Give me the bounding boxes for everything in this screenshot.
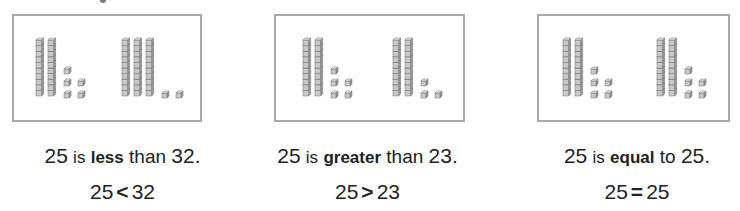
- unit-cube-icon: [591, 67, 598, 74]
- right-number: 23.: [429, 144, 458, 167]
- unit-segment: [393, 38, 401, 46]
- equation-right: 32: [132, 180, 155, 203]
- ten-rod-icon: [657, 38, 665, 96]
- unit-segment: [669, 38, 677, 46]
- comparison-equation: 25>23: [245, 180, 490, 204]
- unit-cube-icon: [435, 91, 442, 98]
- unit-segment: [134, 38, 142, 46]
- unit-segment: [122, 38, 130, 46]
- unit-segment: [303, 38, 311, 46]
- comparison-keyword: equal: [610, 148, 654, 167]
- base-ten-blocks-figure: [14, 16, 204, 124]
- left-number: 25: [44, 144, 67, 167]
- less-than-symbol: <: [116, 180, 128, 203]
- unit-cube-icon: [331, 79, 338, 86]
- unit-cube-icon: [685, 91, 692, 98]
- unit-cube-icon: [64, 91, 71, 98]
- right-number: 25.: [681, 144, 710, 167]
- base-ten-blocks-box: [537, 14, 730, 122]
- equation-right: 23: [377, 180, 400, 203]
- left-number: 25: [564, 144, 587, 167]
- unit-cube-icon: [605, 91, 612, 98]
- equation-left: 25: [605, 180, 628, 203]
- comparison-sentence: 25 is less than 32.: [0, 144, 245, 168]
- unit-cube-icon: [421, 79, 428, 86]
- unit-cube-icon: [685, 79, 692, 86]
- connector-word: than: [386, 146, 423, 167]
- comparison-panel-less: 25 is less than 32. 25<32: [0, 0, 245, 211]
- unit-cube-icon: [162, 91, 169, 98]
- unit-cube-icon: [331, 67, 338, 74]
- ten-rod-icon: [575, 38, 583, 96]
- unit-segment: [405, 38, 413, 46]
- word-is: is: [306, 148, 318, 167]
- unit-cube-icon: [78, 79, 85, 86]
- base-ten-blocks-figure: [276, 16, 467, 124]
- ten-rod-icon: [48, 38, 56, 96]
- base-ten-blocks-figure: [539, 16, 732, 124]
- unit-segment: [657, 38, 665, 46]
- equation-right: 25: [646, 180, 669, 203]
- greater-than-symbol: >: [361, 180, 373, 203]
- unit-cube-icon: [64, 67, 71, 74]
- unit-segment: [575, 38, 583, 46]
- connector-word: than: [129, 146, 166, 167]
- word-is: is: [73, 148, 85, 167]
- ten-rod-icon: [303, 38, 311, 96]
- base-ten-blocks-box: [12, 14, 202, 122]
- unit-cube-icon: [421, 91, 428, 98]
- base-ten-blocks-box: [274, 14, 465, 122]
- unit-segment: [48, 38, 56, 46]
- unit-cube-icon: [176, 91, 183, 98]
- comparison-keyword: less: [91, 148, 124, 167]
- unit-cube-icon: [345, 79, 352, 86]
- equals-symbol: =: [631, 180, 643, 203]
- unit-segment: [315, 38, 323, 46]
- unit-segment: [146, 38, 154, 46]
- ten-rod-icon: [315, 38, 323, 96]
- unit-cube-icon: [78, 91, 85, 98]
- equation-left: 25: [335, 180, 358, 203]
- unit-cube-icon: [331, 91, 338, 98]
- comparison-keyword: greater: [323, 148, 381, 167]
- unit-cube-icon: [605, 79, 612, 86]
- unit-cube-icon: [685, 67, 692, 74]
- unit-cube-icon: [699, 79, 706, 86]
- ten-rod-icon: [563, 38, 571, 96]
- comparison-panel-equal: 25 is equal to 25. 25=25: [490, 0, 740, 211]
- ten-rod-icon: [405, 38, 413, 96]
- unit-cube-icon: [591, 79, 598, 86]
- comparison-equation: 25<32: [0, 180, 245, 204]
- ten-rod-icon: [669, 38, 677, 96]
- ten-rod-icon: [122, 38, 130, 96]
- unit-segment: [36, 38, 44, 46]
- ten-rod-icon: [134, 38, 142, 96]
- ten-rod-icon: [146, 38, 154, 96]
- equation-left: 25: [90, 180, 113, 203]
- comparison-sentence: 25 is equal to 25.: [512, 144, 740, 168]
- word-is: is: [593, 148, 605, 167]
- comparison-panel-greater: 25 is greater than 23. 25>23: [245, 0, 490, 211]
- unit-cube-icon: [699, 91, 706, 98]
- connector-word: to: [660, 146, 676, 167]
- ten-rod-icon: [393, 38, 401, 96]
- left-number: 25: [277, 144, 300, 167]
- ten-rod-icon: [36, 38, 44, 96]
- unit-cube-icon: [591, 91, 598, 98]
- unit-cube-icon: [345, 91, 352, 98]
- right-number: 32.: [171, 144, 200, 167]
- unit-cube-icon: [64, 79, 71, 86]
- comparison-equation: 25=25: [512, 180, 740, 204]
- unit-segment: [563, 38, 571, 46]
- comparison-sentence: 25 is greater than 23.: [245, 144, 490, 168]
